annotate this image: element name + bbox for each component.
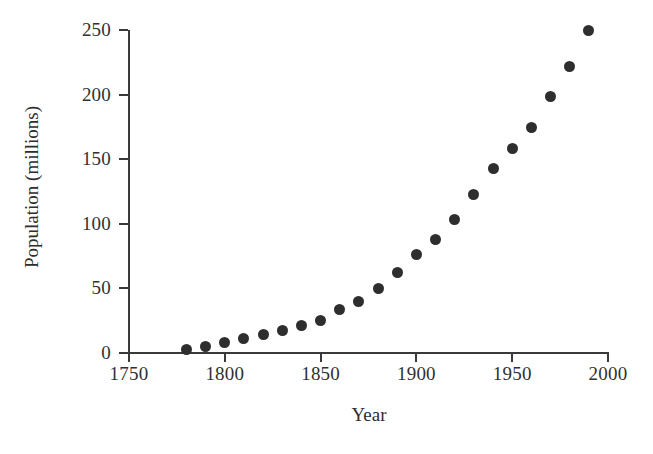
x-tick-mark [511, 353, 513, 362]
data-point [373, 283, 384, 294]
y-tick-label: 250 [51, 20, 111, 39]
y-tick-label: 150 [51, 149, 111, 168]
data-point [296, 320, 307, 331]
x-tick-mark [607, 353, 609, 362]
data-point [334, 304, 345, 315]
y-tick-label: 0 [51, 343, 111, 362]
data-point [315, 315, 326, 326]
data-point [353, 296, 364, 307]
data-point [468, 189, 479, 200]
data-point [545, 91, 556, 102]
y-tick-label: 200 [51, 85, 111, 104]
x-tick-mark [415, 353, 417, 362]
data-point [200, 341, 211, 352]
x-tick-label: 1950 [467, 364, 557, 384]
x-tick-label: 1800 [180, 364, 270, 384]
data-point [430, 234, 441, 245]
x-tick-label: 1900 [371, 364, 461, 384]
y-tick-mark [119, 94, 128, 96]
figure-canvas: 050100150200250 175018001850190019502000… [0, 0, 653, 454]
y-tick-mark [119, 287, 128, 289]
data-point [526, 122, 537, 133]
x-tick-mark [320, 353, 322, 362]
y-tick-mark [119, 223, 128, 225]
y-axis-title: Population (millions) [21, 57, 43, 317]
data-point [507, 143, 518, 154]
data-point [219, 337, 230, 348]
y-tick-label: 100 [51, 214, 111, 233]
x-tick-label: 1750 [84, 364, 174, 384]
x-axis-title: Year [129, 404, 609, 426]
x-tick-label: 2000 [563, 364, 653, 384]
data-point [564, 61, 575, 72]
data-point [258, 329, 269, 340]
y-tick-mark [119, 352, 128, 354]
y-tick-label: 50 [51, 278, 111, 297]
plot-area [129, 30, 608, 353]
x-tick-mark [128, 353, 130, 362]
data-point [449, 214, 460, 225]
y-tick-mark [119, 29, 128, 31]
y-tick-mark [119, 158, 128, 160]
data-point [277, 325, 288, 336]
data-point [238, 333, 249, 344]
x-tick-mark [224, 353, 226, 362]
data-point [488, 163, 499, 174]
data-point [181, 344, 192, 355]
data-point [583, 25, 594, 36]
data-point [411, 249, 422, 260]
x-tick-label: 1850 [276, 364, 366, 384]
data-point [392, 267, 403, 278]
